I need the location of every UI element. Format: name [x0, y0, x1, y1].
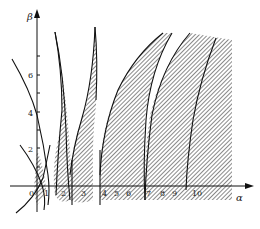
y-tick-2: 2	[28, 145, 33, 154]
y-tick-4: 4	[28, 109, 33, 118]
x-tick-9: 9	[172, 189, 177, 198]
x-tick-3: 3	[81, 189, 86, 198]
x-tick-4: 4	[102, 189, 107, 198]
x-tick-5: 5	[114, 189, 119, 198]
x-axis-arrow-icon	[245, 183, 254, 189]
stability-diagram: β α 2 4 6 0 1 2 3 4 5 6 7 8 9 10	[0, 0, 260, 229]
diagram-canvas: β α 2 4 6 0 1 2 3 4 5 6 7 8 9 10	[0, 0, 260, 229]
x-tick-6: 6	[126, 189, 131, 198]
x-tick-10: 10	[192, 189, 202, 198]
x-tick-2: 2	[61, 189, 66, 198]
y-tick-6: 6	[28, 71, 33, 80]
x-tick-8: 8	[160, 189, 165, 198]
x-tick-0: 0	[29, 189, 34, 198]
y-axis-arrow-icon	[34, 9, 40, 18]
x-axis-label: α	[236, 192, 243, 203]
hatched-regions	[34, 27, 232, 205]
x-tick-1: 1	[44, 189, 49, 198]
x-tick-7: 7	[146, 189, 151, 198]
y-axis-label: β	[26, 11, 33, 22]
